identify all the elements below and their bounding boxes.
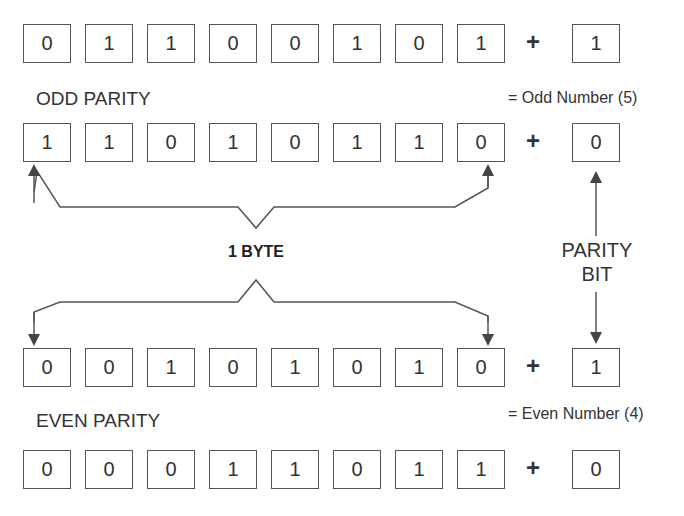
even-parity-label: EVEN PARITY (36, 410, 160, 432)
plus-operator: + (518, 127, 548, 155)
bit-box: 0 (271, 123, 319, 162)
parity-bit-box: 0 (572, 123, 620, 162)
bit-box: 1 (395, 450, 443, 489)
odd-parity-label: ODD PARITY (36, 88, 151, 110)
bit-box: 0 (147, 450, 195, 489)
plus-operator: + (518, 28, 548, 56)
parity-bit-label-line2: BIT (552, 262, 642, 286)
bit-box: 0 (333, 348, 381, 387)
bit-box: 0 (209, 24, 257, 63)
bit-box: 1 (395, 348, 443, 387)
bit-box: 0 (23, 450, 71, 489)
parity-bit-box: 1 (572, 24, 620, 63)
bit-box: 1 (147, 24, 195, 63)
plus-operator: + (518, 454, 548, 482)
bit-box: 1 (23, 123, 71, 162)
bit-box: 0 (457, 123, 505, 162)
bit-box: 0 (85, 450, 133, 489)
bit-box: 0 (395, 24, 443, 63)
bit-box: 1 (271, 348, 319, 387)
bit-box: 1 (209, 450, 257, 489)
bit-box: 1 (209, 123, 257, 162)
one-byte-label: 1 BYTE (228, 243, 284, 261)
parity-bit-box: 1 (572, 348, 620, 387)
parity-bit-label: PARITY BIT (552, 238, 642, 286)
even-number-note: = Even Number (4) (508, 405, 644, 423)
bit-box: 1 (457, 24, 505, 63)
bit-box: 1 (85, 123, 133, 162)
bit-box: 1 (333, 24, 381, 63)
bit-box: 0 (209, 348, 257, 387)
bit-box: 1 (333, 123, 381, 162)
bit-box: 1 (147, 348, 195, 387)
lower-brace (34, 280, 488, 322)
bit-box: 0 (333, 450, 381, 489)
parity-bit-box: 0 (572, 450, 620, 489)
bit-box: 0 (271, 24, 319, 63)
bit-box: 0 (85, 348, 133, 387)
bit-box: 1 (457, 450, 505, 489)
bit-box: 1 (395, 123, 443, 162)
parity-bit-label-line1: PARITY (552, 238, 642, 262)
bit-box: 0 (23, 24, 71, 63)
bit-box: 0 (23, 348, 71, 387)
plus-operator: + (518, 352, 548, 380)
bit-box: 1 (271, 450, 319, 489)
bit-box: 1 (85, 24, 133, 63)
bit-box: 0 (457, 348, 505, 387)
upper-brace (34, 171, 488, 228)
bit-box: 0 (147, 123, 195, 162)
odd-number-note: = Odd Number (5) (508, 89, 637, 107)
